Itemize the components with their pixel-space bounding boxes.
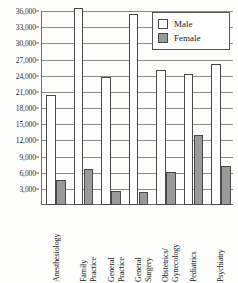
bar-male [184, 74, 194, 205]
y-axis-tick-mark [36, 188, 39, 189]
bar-group [74, 11, 94, 205]
chart-legend: MaleFemale [152, 12, 230, 50]
bar-group [129, 11, 149, 205]
y-axis-tick-label: 15,000 [16, 120, 36, 129]
x-axis-label: Psychiatry [216, 206, 238, 283]
bar-female [56, 180, 66, 205]
y-axis-tick-mark [36, 124, 39, 125]
bar-male [74, 8, 84, 205]
bar-male [46, 95, 56, 205]
bar-female [194, 135, 204, 205]
legend-item: Female [158, 31, 224, 45]
bar-female [221, 166, 231, 205]
x-axis-label-text: Obstetrics/Gynecology [161, 244, 180, 282]
legend-item: Male [158, 17, 224, 31]
bar-female [84, 169, 94, 205]
x-axis-label: FamilyPractice [79, 206, 104, 283]
y-axis-tick-mark [36, 59, 39, 60]
y-axis-tick-mark [36, 43, 39, 44]
bar-female [139, 192, 149, 205]
y-axis-tick-label: 6,000 [19, 168, 36, 177]
x-axis-label-text: FamilyPractice [79, 257, 98, 282]
y-axis-tick-labels: 3,0006,0009,00012,00015,00018,00021,0002… [0, 11, 39, 205]
bar-male [211, 64, 221, 205]
bar-group [101, 11, 121, 205]
legend-label: Male [174, 19, 193, 29]
x-axis-label: GeneralSurgery [134, 206, 159, 283]
bar-male [101, 77, 111, 205]
x-axis-label-text: Pediatrics [189, 251, 199, 282]
bar-chart: 3,0006,0009,00012,00015,00018,00021,0002… [0, 0, 238, 283]
y-axis-tick-label: 3,000 [19, 184, 36, 193]
chart-title [52, 0, 182, 3]
y-axis-tick-mark [36, 27, 39, 28]
y-axis-tick-mark [36, 156, 39, 157]
y-axis-tick-label: 9,000 [19, 152, 36, 161]
x-axis-label: Pediatrics [189, 206, 220, 283]
legend-swatch-female [158, 33, 168, 43]
y-axis-tick-mark [36, 108, 39, 109]
y-axis-tick-label: 27,000 [16, 55, 36, 64]
x-axis-label-text: GeneralPractice [107, 257, 126, 282]
y-axis-tick-label: 18,000 [16, 104, 36, 113]
bar-female [111, 191, 121, 205]
x-axis-label: GeneralPractice [107, 206, 132, 283]
x-axis-category-labels: AnesthesiologyFamilyPracticeGeneralPract… [41, 206, 233, 283]
y-axis-tick-mark [36, 172, 39, 173]
y-axis-tick-label: 12,000 [16, 136, 36, 145]
x-axis-label-text: Psychiatry [216, 249, 226, 282]
y-axis-tick-mark [36, 75, 39, 76]
y-axis-tick-label: 24,000 [16, 71, 36, 80]
bar-male [129, 14, 139, 205]
x-axis-label-text: GeneralSurgery [134, 257, 153, 282]
y-axis-tick-mark [36, 11, 39, 12]
bar-male [156, 70, 166, 205]
y-axis-tick-label: 33,000 [16, 23, 36, 32]
bar-group [46, 11, 66, 205]
legend-swatch-male [158, 19, 168, 29]
y-axis-tick-mark [36, 140, 39, 141]
bar-female [166, 172, 176, 205]
y-axis-tick-label: 30,000 [16, 39, 36, 48]
x-axis-label-text: Anesthesiology [52, 234, 62, 282]
y-axis-tick-mark [36, 91, 39, 92]
y-axis-tick-label: 21,000 [16, 87, 36, 96]
legend-label: Female [174, 33, 201, 43]
y-axis-tick-label: 36,000 [16, 7, 36, 16]
